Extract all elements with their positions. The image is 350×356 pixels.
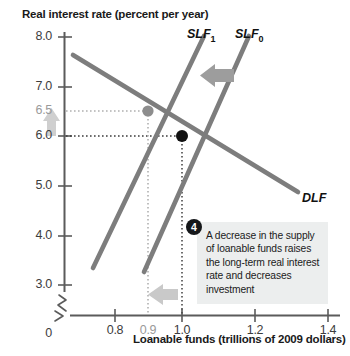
callout-step-badge: 4 <box>186 219 202 235</box>
y-tick-label-7-0: 7.0 <box>18 79 52 93</box>
y-tick-label-8-0: 8.0 <box>18 29 52 43</box>
curve-label-slf1-sub: 1 <box>211 34 216 44</box>
curve-label-slf1: SLF1 <box>187 27 216 44</box>
callout-text: A decrease in the supply of loanable fun… <box>206 229 322 296</box>
marker-new-equilibrium <box>142 105 153 116</box>
curve-label-slf0-sub: 0 <box>259 34 264 44</box>
investment-decrease-arrow <box>148 284 178 305</box>
curve-label-slf1-text: SLF <box>187 27 211 41</box>
y-tick-label-6-0: 6.0 <box>18 128 52 142</box>
origin-label: 0 <box>18 326 52 340</box>
curve-label-slf0-text: SLF <box>235 27 259 41</box>
y-tick-label-6-5: 6.5 <box>18 103 52 117</box>
curve-label-slf0: SLF0 <box>235 27 264 44</box>
y-tick-label-3-0: 3.0 <box>18 277 52 291</box>
callout-box: A decrease in the supply of loanable fun… <box>197 222 328 304</box>
x-axis-break-icon <box>55 311 63 321</box>
curve-label-dlf: DLF <box>302 191 326 205</box>
y-tick-label-5-0: 5.0 <box>18 178 52 192</box>
y-axis-break-icon <box>58 295 66 311</box>
loanable-funds-market-chart: Real interest rate (percent per year) <box>0 0 350 356</box>
marker-original-equilibrium <box>176 130 188 142</box>
y-tick-label-4-0: 4.0 <box>18 228 52 242</box>
curve-slf1 <box>93 36 204 268</box>
x-axis-title: Loanable funds (trillions of 2009 dollar… <box>133 333 346 345</box>
